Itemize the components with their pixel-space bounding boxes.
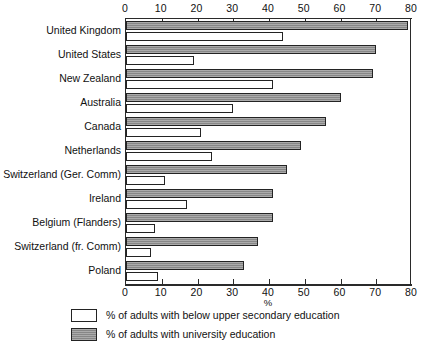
category-label: Belgium (Flanders) [0, 216, 121, 228]
bar-row [126, 115, 410, 139]
legend-swatch-grey [71, 328, 97, 341]
bar-row [126, 19, 410, 43]
category-label: Australia [0, 96, 121, 108]
x-tick-label: 20 [190, 2, 202, 15]
bar-row [126, 260, 410, 284]
x-tick-label: 70 [369, 2, 381, 15]
bar-below-upper-secondary [126, 248, 151, 257]
bar-university-education [126, 21, 408, 30]
category-label: Ireland [0, 192, 121, 204]
bar-university-education [126, 69, 373, 78]
bar-university-education [126, 93, 341, 102]
x-axis-top: 01020304050607080 [125, 2, 411, 18]
bar-university-education [126, 237, 258, 246]
bar-below-upper-secondary [126, 80, 273, 89]
x-tick-label: 10 [155, 2, 167, 15]
category-label: New Zealand [0, 72, 121, 84]
bar-below-upper-secondary [126, 224, 155, 233]
category-label: Canada [0, 120, 121, 132]
x-tick-label: 50 [298, 2, 310, 15]
x-tick-label: 80 [405, 2, 417, 15]
bar-university-education [126, 213, 273, 222]
x-tick-label: 60 [333, 2, 345, 15]
bar-below-upper-secondary [126, 32, 283, 41]
category-label: Switzerland (fr. Comm) [0, 240, 121, 252]
bar-university-education [126, 165, 287, 174]
legend-item: % of adults with university education [71, 325, 371, 344]
bar-row [126, 43, 410, 67]
legend-item: % of adults with below upper secondary e… [71, 306, 371, 325]
bar-below-upper-secondary [126, 56, 194, 65]
bar-below-upper-secondary [126, 128, 201, 137]
bar-university-education [126, 117, 326, 126]
x-tick-label: 40 [262, 2, 274, 15]
bar-below-upper-secondary [126, 152, 212, 161]
bar-university-education [126, 141, 301, 150]
legend-swatch-white [71, 309, 97, 322]
x-tick-label: 0 [122, 2, 128, 15]
bar-below-upper-secondary [126, 176, 165, 185]
legend-label: % of adults with university education [106, 328, 275, 341]
bar-row [126, 236, 410, 260]
bar-row [126, 139, 410, 163]
category-label: Switzerland (Ger. Comm) [0, 168, 121, 180]
bar-row [126, 212, 410, 236]
legend-label: % of adults with below upper secondary e… [106, 309, 339, 322]
bar-row [126, 188, 410, 212]
bar-below-upper-secondary [126, 200, 187, 209]
bar-row [126, 91, 410, 115]
chart-legend: % of adults with below upper secondary e… [71, 306, 371, 344]
category-label: United Kingdom [0, 24, 121, 36]
plot-area [125, 19, 411, 284]
horizontal-bar-chart: 01020304050607080 United KingdomUnited S… [0, 0, 427, 350]
category-label: United States [0, 48, 121, 60]
category-label: Poland [0, 264, 121, 276]
category-label: Netherlands [0, 144, 121, 156]
bar-university-education [126, 189, 273, 198]
bar-below-upper-secondary [126, 104, 233, 113]
bar-below-upper-secondary [126, 272, 158, 281]
bar-row [126, 67, 410, 91]
x-tick-label: 30 [226, 2, 238, 15]
bar-university-education [126, 261, 244, 270]
bar-university-education [126, 45, 376, 54]
bar-row [126, 164, 410, 188]
